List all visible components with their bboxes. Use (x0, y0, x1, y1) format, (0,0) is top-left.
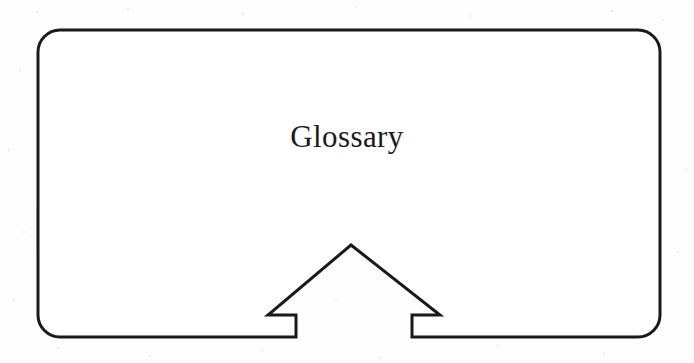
figure-canvas: Glossary (0, 0, 694, 363)
glossary-node-outline (0, 0, 694, 363)
rounded-rect-with-arrow-notch-path (38, 30, 660, 337)
page-title: Glossary (0, 121, 694, 152)
